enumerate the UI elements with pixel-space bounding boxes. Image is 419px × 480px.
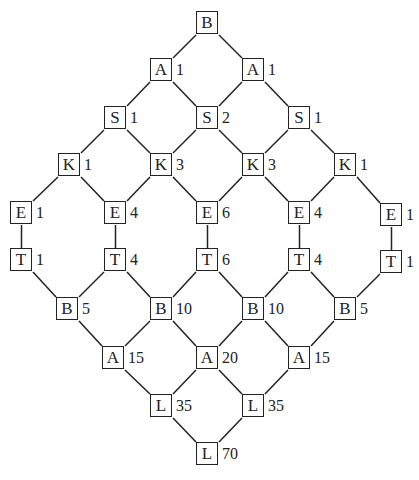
node-count-r2c1: 2 [222, 110, 230, 126]
edge-r1c0-r2c0 [127, 82, 150, 106]
node-r4c2-e: E [196, 201, 218, 224]
node-count-r9c0: 70 [222, 446, 238, 462]
node-r8c0-l: L [150, 394, 172, 417]
node-count-r4c3: 4 [314, 205, 322, 221]
node-r3c2-k: K [242, 153, 264, 176]
edge-r3c3-r4c3 [311, 177, 334, 201]
edge-layer [0, 0, 419, 480]
node-count-r6c2: 10 [268, 301, 284, 317]
node-r6c3-b: B [334, 297, 356, 320]
edge-r3c3-r4c4 [357, 177, 380, 203]
node-count-r1c1: 1 [268, 62, 276, 78]
edge-r5c4-r6c3 [357, 274, 380, 297]
edge-r0c0-r1c0 [173, 35, 196, 58]
edge-r7c2-r8c1 [265, 370, 288, 394]
node-count-r7c2: 15 [314, 350, 330, 366]
node-count-r2c0: 1 [130, 110, 138, 126]
node-count-r7c1: 20 [222, 350, 238, 366]
edge-r3c2-r4c2 [219, 177, 242, 201]
node-count-r6c0: 5 [82, 301, 90, 317]
node-r4c1-e: E [104, 201, 126, 224]
edge-r5c0-r6c0 [33, 272, 56, 297]
edge-r2c2-r3c3 [311, 130, 334, 153]
edge-r7c1-r8c1 [219, 370, 242, 394]
node-r4c0-e: E [10, 201, 32, 224]
edge-r5c2-r6c2 [219, 272, 242, 297]
node-r5c4-t: T [380, 250, 402, 273]
node-count-r6c3: 5 [360, 301, 368, 317]
edge-r7c1-r8c0 [173, 370, 196, 394]
node-r3c1-k: K [150, 153, 172, 176]
node-r7c1-a: A [196, 346, 218, 369]
node-r1c1-a: A [242, 58, 264, 81]
node-r1c0-a: A [150, 58, 172, 81]
node-r6c0-b: B [56, 297, 78, 320]
node-r8c1-l: L [242, 394, 264, 417]
edge-r5c1-r6c0 [79, 272, 104, 297]
node-r3c3-k: K [334, 153, 356, 176]
node-count-r4c4: 1 [406, 207, 414, 223]
node-count-r8c0: 35 [176, 398, 192, 414]
node-count-r6c1: 10 [176, 301, 192, 317]
edge-r1c0-r2c1 [173, 82, 196, 106]
node-count-r3c1: 3 [176, 157, 184, 173]
node-r5c2-t: T [196, 248, 218, 271]
edge-r5c2-r6c1 [173, 272, 196, 297]
edge-r6c1-r7c1 [173, 321, 196, 346]
edge-r6c1-r7c0 [125, 321, 150, 346]
edge-r5c3-r6c3 [311, 272, 334, 297]
node-count-r1c0: 1 [176, 62, 184, 78]
node-count-r3c0: 1 [84, 157, 92, 173]
edge-r3c0-r4c1 [81, 177, 104, 201]
node-r3c0-k: K [58, 153, 80, 176]
edge-r3c0-r4c0 [33, 177, 58, 201]
node-r2c1-s: S [196, 106, 218, 129]
edge-r8c1-r9c0 [219, 418, 242, 442]
node-r4c4-e: E [380, 203, 402, 226]
edge-r7c0-r8c0 [125, 370, 150, 394]
node-count-r5c0: 1 [36, 252, 44, 268]
edge-r3c1-r4c1 [127, 177, 150, 201]
node-r5c0-t: T [10, 248, 32, 271]
node-r6c1-b: B [150, 297, 172, 320]
node-r9c0-l: L [196, 442, 218, 465]
node-count-r5c3: 4 [314, 252, 322, 268]
edge-r8c0-r9c0 [173, 418, 196, 442]
edge-r2c0-r3c0 [81, 130, 104, 153]
edge-r2c2-r3c2 [265, 130, 288, 153]
edge-r3c1-r4c2 [173, 177, 196, 201]
edge-r0c0-r1c1 [219, 35, 242, 58]
edge-r5c3-r6c2 [265, 272, 288, 297]
edge-r6c0-r7c0 [79, 321, 102, 346]
edge-r6c2-r7c1 [219, 321, 242, 346]
node-count-r5c2: 6 [222, 252, 230, 268]
node-count-r8c1: 35 [268, 398, 284, 414]
node-r6c2-b: B [242, 297, 264, 320]
node-count-r4c2: 6 [222, 205, 230, 221]
edge-r3c2-r4c3 [265, 177, 288, 201]
node-count-r3c3: 1 [360, 157, 368, 173]
node-r4c3-e: E [288, 201, 310, 224]
edge-r6c2-r7c2 [265, 321, 288, 346]
edge-r1c1-r2c2 [265, 82, 288, 106]
edge-r6c3-r7c2 [311, 321, 334, 346]
node-r5c3-t: T [288, 248, 310, 271]
node-count-r4c1: 4 [130, 205, 138, 221]
edge-r2c1-r3c1 [173, 130, 196, 153]
node-r2c2-s: S [288, 106, 310, 129]
node-count-r5c4: 1 [406, 254, 414, 270]
node-r0c0-b: B [196, 11, 218, 34]
node-r7c0-a: A [102, 346, 124, 369]
node-count-r3c2: 3 [268, 157, 276, 173]
node-count-r2c2: 1 [314, 110, 322, 126]
edge-r5c1-r6c1 [127, 272, 150, 297]
node-count-r4c0: 1 [36, 205, 44, 221]
edge-r2c1-r3c2 [219, 130, 242, 153]
edge-r2c0-r3c1 [127, 130, 150, 153]
node-r5c1-t: T [104, 248, 126, 271]
node-count-r7c0: 15 [128, 350, 144, 366]
edge-r1c1-r2c1 [219, 82, 242, 106]
node-r7c2-a: A [288, 346, 310, 369]
node-count-r5c1: 4 [130, 252, 138, 268]
node-r2c0-s: S [104, 106, 126, 129]
